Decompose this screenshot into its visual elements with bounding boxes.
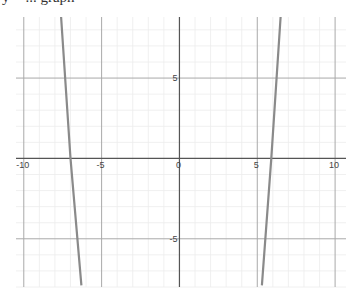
x-tick-label: 0 [176, 160, 181, 170]
curve-right-branch [262, 17, 281, 285]
x-tick-label: -5 [97, 160, 105, 170]
x-tick-label: -10 [16, 160, 29, 170]
y-tick-label: 5 [172, 73, 177, 83]
major-gridlines [16, 17, 346, 287]
curves [61, 17, 281, 285]
x-tick-label: 10 [329, 160, 339, 170]
axes [16, 17, 346, 287]
graph-plot[interactable]: -10-505105-5 [0, 0, 360, 300]
minor-gridlines [16, 17, 346, 287]
curve-left-branch [61, 17, 81, 285]
y-tick-label: -5 [169, 234, 177, 244]
x-tick-label: 5 [254, 160, 259, 170]
